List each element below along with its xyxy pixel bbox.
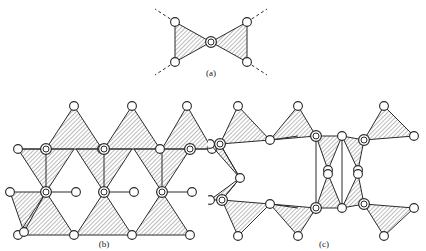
hatched-triangle-unit	[270, 106, 316, 140]
double-ring-vertex	[99, 187, 110, 198]
single-ring-vertex	[410, 204, 419, 213]
double-ring-vertex	[41, 144, 52, 155]
hatched-triangle-unit	[316, 136, 342, 170]
single-ring-vertex	[354, 170, 363, 179]
double-ring-vertex	[99, 144, 110, 155]
double-ring-vertex	[185, 144, 196, 155]
single-ring-vertex	[266, 200, 275, 209]
panel-a-label: (a)	[206, 68, 216, 78]
hatched-triangle-unit	[222, 200, 270, 236]
single-ring-vertex	[243, 58, 252, 67]
single-ring-vertex	[70, 102, 79, 111]
panel-b: (b)	[2, 92, 222, 250]
double-ring-vertex	[41, 187, 52, 198]
hatched-triangle-unit	[134, 192, 190, 235]
single-ring-vertex	[128, 102, 137, 111]
hatched-triangle-unit	[364, 204, 414, 236]
hatched-triangle-unit	[270, 204, 316, 236]
double-ring-vertex	[359, 199, 370, 210]
single-ring-vertex	[14, 145, 23, 154]
panel-c-label: (c)	[319, 239, 329, 249]
figure-root: (a)	[0, 0, 426, 251]
double-ring-vertex	[311, 131, 322, 142]
single-ring-vertex	[72, 188, 81, 197]
single-ring-vertex	[171, 58, 180, 67]
hatched-triangle-unit	[104, 106, 160, 149]
single-ring-vertex	[234, 232, 243, 241]
single-ring-vertex	[266, 136, 275, 145]
single-ring-vertex	[171, 18, 180, 27]
hatched-triangle-unit	[220, 106, 270, 144]
single-ring-vertex	[410, 132, 419, 141]
hatched-triangle-unit	[316, 174, 342, 208]
single-ring-vertex	[294, 102, 303, 111]
single-ring-vertex	[294, 232, 303, 241]
single-ring-vertex	[20, 228, 29, 237]
double-ring-vertex	[215, 139, 226, 150]
double-ring-vertex	[217, 195, 228, 206]
hatched-triangle-unit	[46, 106, 102, 149]
panel-c: (c)	[208, 92, 426, 250]
single-ring-vertex	[380, 102, 389, 111]
single-ring-vertex	[234, 102, 243, 111]
panel-a: (a)	[151, 2, 271, 82]
hatched-triangle-unit	[162, 106, 212, 149]
hatched-triangle-unit	[76, 192, 132, 235]
single-ring-vertex	[70, 231, 79, 240]
single-ring-vertex	[208, 196, 214, 205]
hatched-triangle-unit	[364, 106, 414, 140]
double-ring-vertex	[206, 37, 217, 48]
single-ring-vertex	[338, 204, 347, 213]
single-ring-vertex	[243, 18, 252, 27]
single-ring-vertex	[338, 132, 347, 141]
single-ring-vertex	[188, 188, 197, 197]
double-ring-vertex	[359, 135, 370, 146]
single-ring-vertex	[208, 140, 214, 149]
panel-c-triangles	[210, 106, 414, 236]
single-ring-vertex	[6, 188, 15, 197]
single-ring-vertex	[380, 232, 389, 241]
single-ring-vertex	[156, 145, 165, 154]
single-ring-vertex	[130, 188, 139, 197]
single-ring-vertex	[128, 231, 137, 240]
single-ring-vertex	[236, 174, 245, 183]
single-ring-vertex	[324, 170, 333, 179]
single-ring-vertex	[186, 231, 195, 240]
hatched-triangle-unit	[210, 144, 240, 178]
double-ring-vertex	[311, 203, 322, 214]
panel-b-triangles	[10, 106, 212, 235]
double-ring-vertex	[157, 187, 168, 198]
panel-b-label: (b)	[99, 239, 110, 249]
single-ring-vertex	[183, 102, 192, 111]
